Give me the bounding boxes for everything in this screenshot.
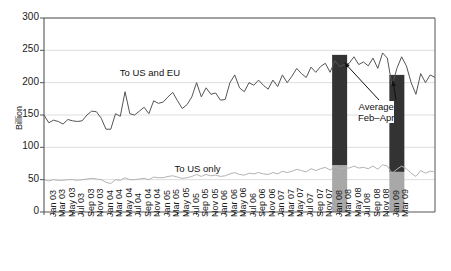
x-tick-label: Jul 08 — [362, 193, 372, 217]
annotation-line-1: Average — [359, 101, 394, 112]
annotation-arrow-line — [345, 63, 379, 100]
x-tick-label: Mar 09 — [400, 189, 410, 217]
annotation-average-feb-apr: Average Feb–Apr — [358, 101, 394, 123]
y-tick-label: 150 — [4, 108, 39, 119]
x-tick-label: Jul 04 — [133, 193, 143, 217]
y-tick-label: 50 — [4, 173, 39, 184]
plot-area — [0, 0, 451, 271]
x-tick-label: May 06 — [238, 187, 248, 217]
x-tick-label: Nov 08 — [381, 188, 391, 217]
bar-upper-segment — [389, 75, 404, 172]
x-tick-label: Nov 03 — [95, 188, 105, 217]
y-tick-label: 0 — [4, 205, 39, 216]
x-tick-label: Sep 06 — [257, 188, 267, 217]
x-tick-label: Mar 05 — [171, 189, 181, 217]
series-label-to-us-only: To US only — [175, 163, 221, 174]
x-tick-label: Mar 08 — [343, 189, 353, 217]
y-tick-label: 100 — [4, 140, 39, 151]
x-tick-label: Nov 04 — [152, 188, 162, 217]
chart-container: Billion 050100150200250300 Jan 03Mar 03M… — [0, 0, 451, 271]
x-tick-label: Jan 06 — [219, 190, 229, 217]
y-tick-label: 200 — [4, 76, 39, 87]
y-tick-label: 250 — [4, 43, 39, 54]
x-tick-label: Jul 07 — [305, 193, 315, 217]
annotation-line-2: Feb–Apr — [358, 112, 394, 123]
x-tick-label: Jul 03 — [76, 193, 86, 217]
bar-upper-segment — [332, 55, 347, 166]
x-tick-label: Mar 03 — [57, 189, 67, 217]
x-tick-label: May 05 — [181, 187, 191, 217]
series-line-to-us-only — [44, 165, 435, 184]
x-tick-label: Jan 07 — [276, 190, 286, 217]
x-tick-label: Nov 07 — [324, 188, 334, 217]
series-label-to-us-and-eu: To US and EU — [120, 67, 180, 78]
x-tick-label: Jan 03 — [48, 190, 58, 217]
x-tick-label: Sep 05 — [200, 188, 210, 217]
x-tick-label: May 07 — [295, 187, 305, 217]
x-tick-label: Mar 04 — [114, 189, 124, 217]
y-tick-label: 300 — [4, 11, 39, 22]
